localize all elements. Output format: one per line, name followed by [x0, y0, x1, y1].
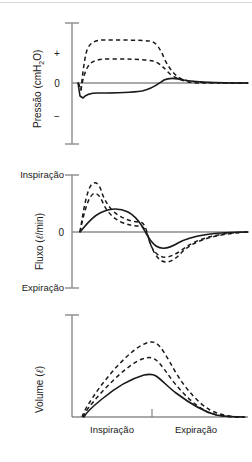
- flow-label-inspiration: Inspiração: [20, 169, 64, 180]
- top-divider-rule: [0, 2, 252, 3]
- flow-label-expiration: Expiração: [22, 282, 64, 293]
- pressure-ylabel: Pressão (cmH2O): [32, 50, 45, 128]
- respiratory-mechanics-figure: Pressão (cmH2O) + 0 − Fluxo (ℓ/min) Insp…: [0, 0, 252, 462]
- flow-ylabel-text: Fluxo (ℓ/min): [34, 213, 45, 270]
- xaxis-label-inspiration: Inspiração: [90, 424, 134, 435]
- pressure-ylabel-text: Pressão (cmH2O): [32, 50, 45, 128]
- volume-curve-mid: [83, 358, 244, 417]
- pressure-tick-minus: −: [54, 111, 60, 122]
- pressure-curve-mid: [78, 59, 248, 90]
- flow-panel: Fluxo (ℓ/min) Inspiração 0 Expiração: [0, 160, 252, 305]
- pressure-tick-zero: 0: [54, 78, 60, 89]
- xaxis-label-expiration: Expiração: [175, 424, 217, 435]
- volume-ylabel-text: Volume (ℓ): [34, 366, 45, 413]
- flow-curve-spontaneous: [80, 209, 248, 248]
- volume-panel: Volume (ℓ) Inspiração Expiração: [0, 305, 252, 462]
- volume-curve-spontaneous: [84, 374, 245, 417]
- pressure-panel: Pressão (cmH2O) + 0 −: [0, 8, 252, 158]
- flow-curve-high: [80, 183, 248, 262]
- flow-ylabel: Fluxo (ℓ/min): [34, 213, 45, 270]
- volume-ylabel: Volume (ℓ): [34, 366, 45, 413]
- volume-curve-high: [82, 342, 244, 417]
- pressure-tick-plus: +: [54, 48, 60, 59]
- flow-tick-zero: 0: [58, 227, 64, 238]
- pressure-curve-spontaneous: [78, 78, 248, 98]
